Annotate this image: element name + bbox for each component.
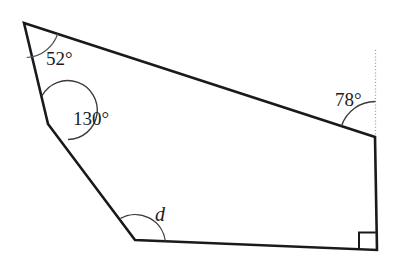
geometry-figure: 52° 130° d 78° <box>0 0 399 280</box>
angle-label-78: 78° <box>335 89 362 110</box>
angle-label-d: d <box>155 203 166 225</box>
angle-label-52: 52° <box>46 48 73 69</box>
pentagon-interior <box>24 23 377 250</box>
angle-label-130: 130° <box>73 108 109 129</box>
geometry-diagram: 52° 130° d 78° <box>0 0 399 280</box>
